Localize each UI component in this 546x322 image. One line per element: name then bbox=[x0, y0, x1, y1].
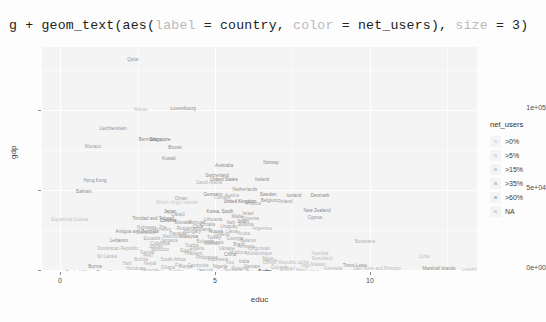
y-tick-mark bbox=[38, 190, 41, 191]
country-label: Philippines bbox=[196, 255, 218, 260]
country-label: Norway bbox=[263, 160, 279, 165]
gridline-x-minor1 bbox=[138, 47, 139, 271]
y-axis-title: gdp bbox=[9, 146, 18, 159]
country-label: Guinea bbox=[305, 269, 320, 272]
country-label: Togo bbox=[300, 263, 310, 268]
country-label: Canada bbox=[214, 195, 230, 200]
country-label: Bolivia bbox=[134, 257, 148, 262]
code-token-6: = 3) bbox=[488, 18, 529, 33]
country-label: Qatar bbox=[127, 57, 139, 62]
legend-key-glyph-icon: a bbox=[490, 192, 501, 203]
country-label: Niger bbox=[263, 256, 274, 261]
country-label: Ecuador bbox=[143, 236, 160, 241]
country-label: Central African Republic bbox=[65, 270, 114, 272]
country-label: Estonia bbox=[238, 222, 253, 227]
country-label: Barbados bbox=[136, 230, 156, 235]
gridline-y-1e05 bbox=[42, 110, 477, 111]
country-label: Iraq bbox=[226, 260, 234, 265]
country-label: Korea, South bbox=[207, 209, 234, 214]
country-label: Denmark bbox=[311, 193, 330, 198]
country-label: Benin bbox=[280, 269, 292, 272]
legend-key-glyph-icon: a bbox=[490, 136, 501, 147]
country-label: Sweden bbox=[260, 192, 277, 197]
country-label: South Africa bbox=[161, 257, 186, 262]
legend-item-label: NA bbox=[505, 208, 515, 215]
country-label: Mauritius bbox=[163, 234, 182, 239]
legend-item: a>35% bbox=[490, 176, 544, 190]
legend-key-glyph-icon: a bbox=[490, 206, 501, 217]
x-tick-mark bbox=[370, 272, 371, 275]
country-label: Sri Lanka bbox=[97, 254, 116, 259]
country-label: Belgium bbox=[261, 198, 278, 203]
gridline-x-0 bbox=[60, 47, 61, 271]
country-label: Dominican Republic bbox=[98, 246, 139, 251]
legend-item: a>60% bbox=[490, 190, 544, 204]
y-tick-label: 0e+00 bbox=[512, 264, 546, 271]
country-label: Bahrain bbox=[76, 189, 92, 194]
code-title: g + geom_text(aes(label = country, color… bbox=[9, 16, 529, 36]
country-label: Sao Tome and Principe bbox=[353, 266, 400, 271]
legend-item-label: >35% bbox=[505, 180, 523, 187]
country-label: Sudan bbox=[258, 269, 271, 272]
legend-item: aNA bbox=[490, 204, 544, 218]
legend-item: a>0% bbox=[490, 134, 544, 148]
country-label: Grenada bbox=[324, 266, 342, 271]
country-label: Botswana bbox=[355, 239, 375, 244]
legend-item-label: >60% bbox=[505, 194, 523, 201]
country-label: Zambia bbox=[168, 269, 183, 272]
y-tick-mark bbox=[38, 270, 41, 271]
country-label: Aruba bbox=[238, 231, 250, 236]
country-label: Latvia bbox=[226, 229, 238, 234]
country-label: Senegal bbox=[141, 268, 158, 272]
country-label: British Virgin Islands bbox=[156, 200, 198, 205]
country-label: Netherlands bbox=[233, 187, 258, 192]
country-label: Lebanon bbox=[110, 238, 128, 243]
legend-item-label: >5% bbox=[505, 152, 519, 159]
country-label: Malawi bbox=[311, 262, 325, 267]
country-label: Haiti bbox=[122, 261, 131, 266]
country-label: Moldova bbox=[229, 250, 246, 255]
country-label: Malta bbox=[231, 214, 242, 219]
country-label: Brunei bbox=[168, 145, 181, 150]
legend-item-label: >15% bbox=[505, 166, 523, 173]
gridline-y-minor3 bbox=[42, 70, 477, 71]
legend-key-glyph-icon: a bbox=[490, 164, 501, 175]
gridline-y-minor2 bbox=[42, 150, 477, 151]
code-token-1: label bbox=[155, 18, 196, 33]
country-label: Bahamas, The bbox=[137, 225, 167, 230]
plot-root: g + geom_text(aes(label = country, color… bbox=[0, 0, 546, 322]
country-label: Lesotho bbox=[462, 267, 477, 272]
x-tick-mark bbox=[215, 272, 216, 275]
country-label: Luxembourg bbox=[170, 106, 196, 111]
country-label: Fiji bbox=[175, 263, 181, 268]
country-label: Singapore bbox=[150, 137, 171, 142]
country-label: Burma bbox=[88, 264, 102, 269]
country-label: Finland bbox=[277, 199, 292, 204]
country-label: Jordan bbox=[149, 244, 163, 249]
legend-item-label: >0% bbox=[505, 138, 519, 145]
y-tick-label: 1e+05 bbox=[512, 104, 546, 111]
legend-title: net_users bbox=[490, 120, 544, 129]
x-tick-label: 5 bbox=[213, 277, 217, 284]
country-label: Slovakia bbox=[174, 220, 191, 225]
country-label: France bbox=[247, 201, 261, 206]
x-tick-mark bbox=[60, 272, 61, 275]
code-token-4: = net_users), bbox=[334, 18, 456, 33]
country-label: New Zealand bbox=[303, 208, 330, 213]
country-label: Uganda bbox=[197, 268, 213, 272]
country-label: Iceland bbox=[287, 193, 302, 198]
country-label: Qatar2 bbox=[171, 212, 185, 217]
legend-key-glyph-icon: a bbox=[490, 150, 501, 161]
country-label: Liechtenstein bbox=[99, 126, 126, 131]
country-label: Hong Kong bbox=[84, 178, 107, 183]
country-label: Lithuania bbox=[204, 217, 223, 222]
gridline-x-minor3 bbox=[447, 47, 448, 271]
country-label: Australia bbox=[215, 163, 233, 168]
legend-items: a>0%a>5%a>15%a>35%a>60%aNA bbox=[490, 134, 544, 218]
country-label: Swaziland bbox=[312, 256, 333, 261]
country-label: Romania bbox=[177, 226, 195, 231]
country-label: Trinidad and Tobago bbox=[132, 216, 174, 221]
country-label: Equatorial Guinea bbox=[52, 217, 89, 222]
gridline-x-minor2 bbox=[292, 47, 293, 271]
country-label: Albania bbox=[208, 240, 223, 245]
